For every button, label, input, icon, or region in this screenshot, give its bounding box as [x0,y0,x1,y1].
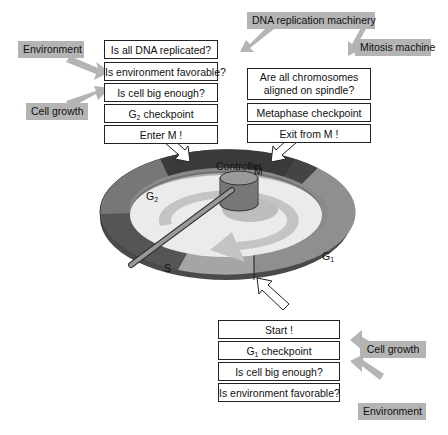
input-tag-mitosis-machine: Mitosis machine [355,39,431,56]
g2-checkpoint-text: checkpoint [140,108,193,120]
g1-label-g: G [322,250,330,262]
g1-label-sub: 1 [330,256,334,263]
phase-label-s: S [164,262,171,274]
input-tag-cell-growth-g2: Cell growth [26,103,88,120]
g1-checkpoint-text: checkpoint [258,345,311,357]
box-enter-m: Enter M ! [104,125,218,144]
phase-label-g2: G2 [146,190,158,202]
box-metaphase-checkpoint: Metaphase checkpoint [247,103,371,122]
phase-label-m: M [254,165,263,177]
box-environment-favorable-g2: Is environment favorable? [104,62,218,81]
box-dna-replicated: Is all DNA replicated? [104,40,218,59]
box-g2-checkpoint: G2 checkpoint [104,104,218,123]
box-cell-big-enough-g2: Is cell big enough? [104,83,218,102]
g2-checkpoint-g: G [128,108,136,120]
input-tag-cell-growth-g1: Cell growth [360,341,426,358]
box-exit-from-m: Exit from M ! [247,124,371,143]
box-cell-big-enough-g1: Is cell big enough? [218,362,340,381]
phase-label-g1: G1 [322,250,334,262]
chromosomes-line2: aligned on spindle? [248,84,370,97]
box-g1-checkpoint: G1 checkpoint [218,341,340,360]
input-tag-environment-g2: Environment [18,41,84,58]
input-tag-environment-g1: Environment [358,403,426,420]
box-environment-favorable-g1: Is environment favorable? [218,383,340,402]
box-chromosomes-aligned: Are all chromosomesaligned on spindle? [247,68,371,100]
input-tag-dna-replication: DNA replication machinery [247,12,375,29]
g2-label-g: G [146,190,154,202]
g2-label-sub: 2 [154,196,158,203]
chromosomes-line1: Are all chromosomes [248,71,370,84]
box-start: Start ! [218,320,340,339]
g1-checkpoint-g: G [246,345,254,357]
